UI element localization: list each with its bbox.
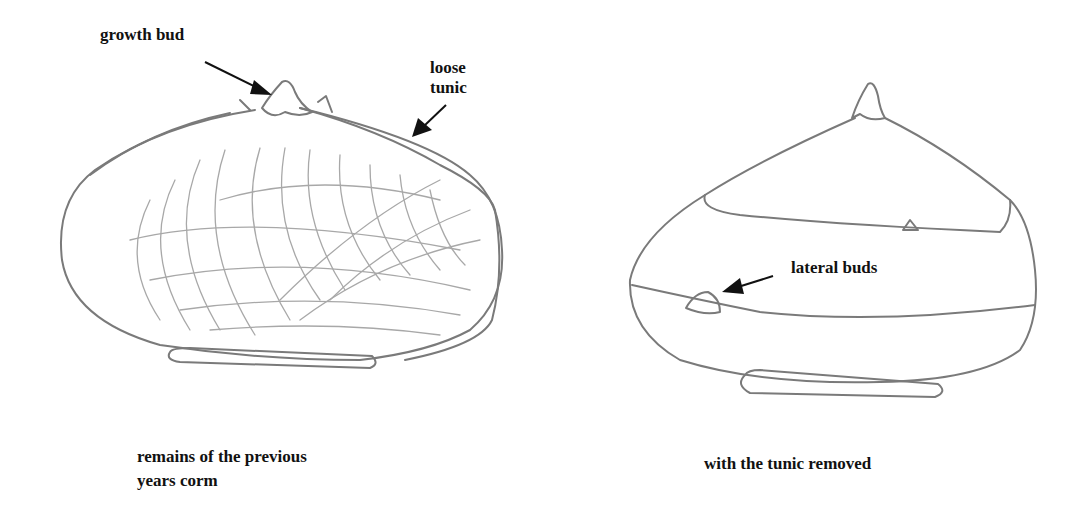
corm-illustration bbox=[0, 0, 1080, 522]
loose-tunic-line-1: loose bbox=[430, 58, 467, 78]
growth-bud-label: growth bud bbox=[100, 24, 184, 46]
loose-tunic-arrow bbox=[412, 105, 446, 137]
growth-bud-arrow bbox=[205, 62, 272, 95]
left-caption-line-1: remains of the previous bbox=[137, 445, 307, 469]
left-caption: remains of the previous years corm bbox=[137, 445, 307, 493]
left-corm-drawing bbox=[61, 81, 502, 368]
right-corm-drawing bbox=[630, 83, 1036, 397]
loose-tunic-label: loose tunic bbox=[430, 58, 467, 98]
right-caption: with the tunic removed bbox=[704, 453, 871, 475]
lateral-buds-label: lateral buds bbox=[791, 257, 877, 279]
left-caption-line-2: years corm bbox=[137, 469, 307, 493]
lateral-buds-arrow bbox=[722, 276, 773, 294]
loose-tunic-line-2: tunic bbox=[430, 78, 467, 98]
